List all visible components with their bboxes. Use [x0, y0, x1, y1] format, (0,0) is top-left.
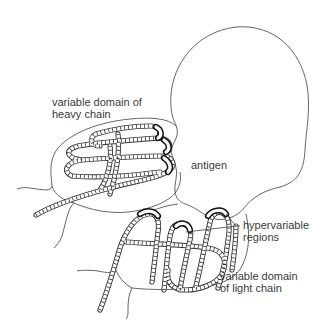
- hypervariable-label-line1: hypervariable: [243, 219, 309, 231]
- antigen-outline: [171, 27, 309, 220]
- light-chain-label-line1: variable domain: [220, 270, 298, 282]
- heavy-chain-label-line1: variable domain of: [52, 96, 142, 108]
- heavy-chain-label: variable domain of heavy chain: [52, 96, 142, 120]
- light-chain-strands: [100, 210, 236, 310]
- hypervariable-label: hypervariable regions: [243, 219, 309, 243]
- heavy-chain-label-line2: heavy chain: [52, 108, 142, 120]
- antigen-label: antigen: [191, 159, 227, 171]
- light-chain-label: variable domain of light chain: [220, 270, 298, 294]
- hypervariable-label-line2: regions: [243, 231, 309, 243]
- light-chain-label-line2: of light chain: [220, 282, 298, 294]
- heavy-chain-strands: [36, 126, 173, 215]
- antibody-antigen-diagram: variable domain of heavy chain antigen h…: [0, 0, 328, 327]
